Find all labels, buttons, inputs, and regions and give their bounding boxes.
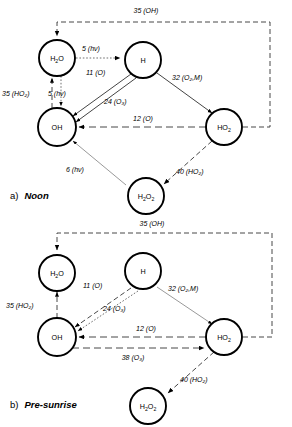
caption-a-text: Noon: [24, 190, 48, 201]
node-a-h[interactable]: H: [125, 42, 161, 78]
caption-b-index: b): [10, 399, 18, 410]
node-a-h2o[interactable]: H2O: [39, 40, 75, 76]
panel-b: 35 (OH) 35 (HO₂) 11 (O) 32 (O₂,M) 24 (O₃…: [6, 220, 272, 424]
node-a-oh[interactable]: OH: [38, 108, 76, 146]
edge-label-a-top-loop: 35 (OH): [134, 7, 159, 15]
figure-root: 35 (OH) 5 (hν) 11 (O) 5 (hν) 35 (HO₂) 32…: [0, 0, 292, 427]
node-a-h-label: H: [140, 56, 145, 65]
edge-label-a-ho2-oh: 12 (O): [133, 115, 153, 123]
edge-label-b-h-ho2: 32 (O₂,M): [168, 285, 198, 293]
edge-b-h-ho2: [157, 287, 212, 324]
edge-label-b-top-loop: 35 (OH): [140, 220, 165, 228]
node-b-h[interactable]: H: [125, 253, 161, 289]
edge-label-a-h-oh-11: 11 (O): [86, 69, 105, 77]
edge-label-a-h-ho2: 32 (O₂,M): [172, 74, 202, 82]
edge-label-b-h-oh-24: 24 (O₃): [102, 305, 126, 313]
caption-b: b)Pre-sunrise: [10, 399, 77, 410]
edge-a-h-oh-11: [73, 74, 131, 116]
node-b-ho2[interactable]: HO2: [206, 319, 242, 355]
node-a-h2o2[interactable]: H2O2: [128, 178, 164, 214]
reaction-flow-diagram: 35 (OH) 5 (hν) 11 (O) 5 (hν) 35 (HO₂) 32…: [0, 0, 292, 427]
edge-label-a-oh-h2o: 35 (HO₂): [2, 90, 30, 98]
node-b-h2o[interactable]: H2O: [39, 255, 75, 291]
edge-label-b-ho2-h2o2: 40 (HO₂): [180, 376, 208, 384]
node-b-oh-label: OH: [52, 333, 63, 342]
edge-b-ho2-h2o2: [168, 352, 214, 393]
node-b-h2o2[interactable]: H2O2: [130, 388, 166, 424]
node-b-h-label: H: [140, 267, 145, 276]
caption-b-text: Pre-sunrise: [24, 399, 77, 410]
edge-label-b-h-oh-11: 11 (O): [83, 282, 102, 290]
edge-label-b-ho2-oh: 12 (O): [136, 325, 156, 333]
edge-label-a-h-oh-24: 24 (O₃): [103, 98, 127, 106]
edge-label-a-h2o-oh: 5 (hν): [48, 90, 66, 98]
node-b-oh[interactable]: OH: [38, 318, 76, 356]
edge-label-b-oh-ho2: 38 (O₃): [122, 354, 145, 362]
edge-label-a-h2o-h: 5 (hν): [82, 45, 100, 53]
caption-a-index: a): [10, 190, 18, 201]
edge-a-h2o2-oh: [73, 141, 126, 185]
node-a-oh-label: OH: [52, 123, 63, 132]
caption-a: a)Noon: [10, 190, 49, 201]
panel-a: 35 (OH) 5 (hν) 11 (O) 5 (hν) 35 (HO₂) 32…: [2, 7, 270, 214]
edge-label-b-oh-h2o: 35 (HO₂): [6, 302, 34, 310]
edge-a-ho2-h2o2: [164, 141, 212, 184]
node-a-ho2[interactable]: HO2: [206, 109, 242, 145]
edge-label-a-ho2-h2o2: 40 (HO₂): [176, 168, 204, 176]
edge-label-a-h2o2-oh: 6 (hν): [66, 166, 84, 174]
